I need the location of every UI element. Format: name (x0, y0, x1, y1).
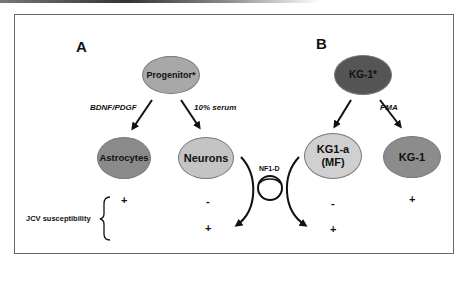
node-kg1: KG-1 (383, 136, 441, 178)
jcv-susceptibility-label: JCV susceptibility (26, 214, 91, 223)
treatment-bdnf-pdgf: BDNF/PDGF (90, 103, 137, 112)
node-kg1-star: KG-1* (334, 55, 392, 95)
curved-arrow-left (237, 157, 253, 225)
node-kg1-star-label: KG-1* (349, 69, 377, 81)
neurons-jcv-sign-1: - (206, 195, 210, 207)
node-progenitor-label: Progenitor* (146, 70, 195, 80)
node-astrocytes-label: Astrocytes (99, 153, 148, 164)
panel-label-b: B (316, 35, 327, 52)
node-kg1-label: KG-1 (399, 151, 425, 164)
node-kg1a-label: KG1-a (317, 143, 349, 156)
kg1a-jcv-sign-2: + (330, 223, 336, 235)
kg1a-jcv-sign-1: - (331, 197, 335, 209)
kg1-jcv-sign: + (409, 193, 415, 205)
node-neurons-label: Neurons (184, 152, 229, 165)
panel-label-a: A (76, 38, 87, 55)
curved-arrow-right (287, 157, 305, 225)
node-kg1a-mf: KG1-a (MF) (304, 133, 362, 179)
treatment-serum: 10% serum (194, 103, 236, 112)
plasmid-insert-icon (260, 179, 280, 183)
plasmid-label: NF1-D (259, 165, 280, 172)
node-progenitor: Progenitor* (142, 56, 200, 94)
arrow-kg1star-kg1a (335, 100, 351, 126)
node-kg1a-sublabel: (MF) (321, 156, 344, 169)
neurons-jcv-sign-2: + (205, 222, 211, 234)
node-neurons: Neurons (178, 137, 234, 179)
brace-icon (100, 197, 110, 240)
treatment-pma: PMA (380, 103, 398, 112)
node-astrocytes: Astrocytes (97, 137, 151, 179)
astrocytes-jcv-sign: + (121, 194, 127, 206)
